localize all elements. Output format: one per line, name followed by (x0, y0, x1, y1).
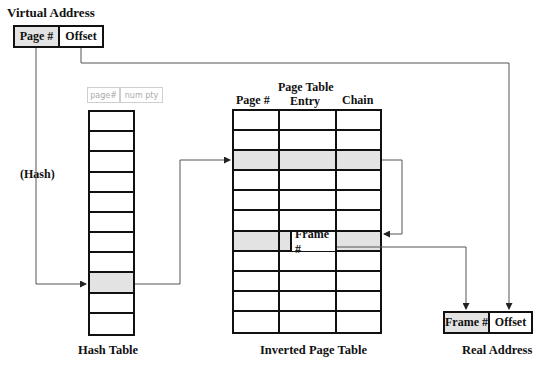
frame-arrow (335, 247, 466, 309)
ipt-column-divider (335, 111, 337, 332)
chain-arrow (382, 160, 402, 234)
offset-arrow (81, 48, 509, 309)
hash-to-ipt-arrow (135, 160, 230, 284)
ipt-frame-number-cell: Frame # (290, 232, 335, 251)
hash-arrow (36, 48, 86, 284)
connector-arrows (0, 0, 544, 369)
ipt-column-divider (278, 111, 280, 332)
